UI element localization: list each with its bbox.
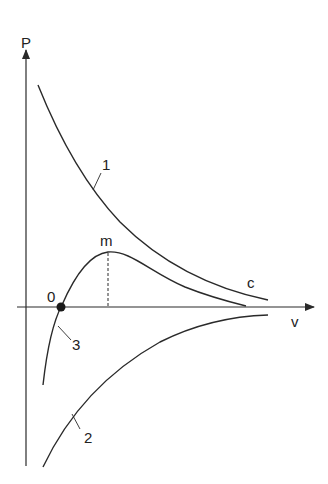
max-label: m bbox=[100, 232, 113, 249]
convergence-label: c bbox=[247, 274, 255, 291]
curve-3 bbox=[43, 252, 246, 385]
curve-1 bbox=[38, 85, 268, 300]
curve-3-label: 3 bbox=[72, 336, 80, 353]
crossing-label: 0 bbox=[47, 288, 55, 305]
leader-1 bbox=[93, 173, 101, 190]
leader-3 bbox=[58, 326, 71, 340]
curve-1-label: 1 bbox=[102, 156, 110, 173]
x-axis-label: v bbox=[291, 313, 299, 330]
leader-2 bbox=[72, 414, 80, 429]
y-axis-label: P bbox=[21, 34, 31, 51]
crossing-point bbox=[57, 303, 66, 312]
pv-diagram: P v 1 m c 0 3 2 bbox=[0, 0, 328, 484]
curve-2-label: 2 bbox=[84, 429, 92, 446]
